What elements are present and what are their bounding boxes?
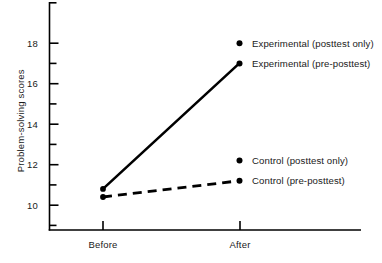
y-tick-label-14: 14 [16,120,38,130]
series-line-control [103,181,239,197]
y-tick-label-16: 16 [16,79,38,89]
data-point-experimental-posttest-only-after [237,40,243,46]
x-ticks [103,221,240,230]
x-tick-label-before: Before [68,240,138,250]
y-tick-label-10: 10 [16,201,38,211]
y-major-ticks [50,43,59,205]
data-point-control-before [100,194,106,200]
data-point-control-pre-posttest-after [237,178,243,184]
legend-label-control-pre-posttest: Control (pre-posttest) [252,176,345,186]
legend-label-experimental-posttest-only: Experimental (posttest only) [252,39,374,49]
legend-label-experimental-pre-posttest: Experimental (pre-posttest) [252,59,370,69]
data-point-experimental-before [100,186,106,192]
chart-figure: Problem-solving scores 18 16 14 12 10 Be… [0,0,382,263]
x-tick-label-after: After [205,240,275,250]
data-point-experimental-pre-posttest-after [237,61,243,67]
y-tick-label-12: 12 [16,160,38,170]
legend-label-control-posttest-only: Control (posttest only) [252,156,348,166]
y-minor-ticks [50,3,57,226]
series-line-experimental [103,64,239,189]
y-tick-label-18: 18 [16,39,38,49]
data-point-control-posttest-only-after [237,158,243,164]
